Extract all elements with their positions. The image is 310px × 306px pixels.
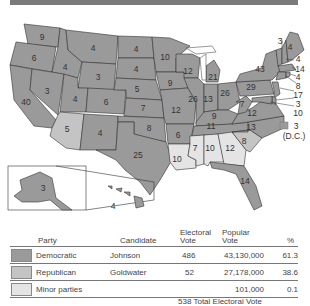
ev-label-vt: 3 [278,36,283,46]
ev-label-ar: 6 [176,130,181,140]
ev-label-va: 12 [247,108,257,118]
ev-label-id: 4 [63,62,68,72]
ev-label-in: 13 [203,94,213,104]
header-party: Party [38,237,57,245]
legend-swatch-minor [11,283,32,296]
total-electoral-vote: 538 Total Electoral Vote [178,297,262,306]
pct-cell: 0.1 [287,285,298,294]
ev-label-ne: 5 [135,84,140,94]
us-electoral-map: 9 6 40 4 3 4 3 4 5 6 4 4 4 5 7 8 25 10 9… [0,10,310,230]
ev-label-nh: 4 [296,54,301,64]
ev-label-nc: 13 [246,122,256,132]
header-electoral-2: Vote [180,237,196,245]
header-bar [10,0,298,5]
ev-label-wy: 3 [96,72,101,82]
ev-label-mn: 10 [160,52,170,62]
ev-label-wi: 12 [183,66,193,76]
ev-label-wa: 9 [40,32,45,42]
electoral-cell: 52 [185,268,194,277]
ev-label-mt: 4 [91,43,96,53]
legend-swatch-democratic [11,249,32,262]
ev-label-fl: 14 [240,176,250,186]
ev-label-ga: 12 [225,143,235,153]
results-table: Party Candidate Electoral Vote Popular V… [10,228,298,298]
party-cell: Republican [36,268,76,277]
candidate-cell: Johnson [110,251,140,260]
table-row: Republican Goldwater 52 27,178,000 38.6 [10,264,298,281]
lake-michigan [200,54,206,80]
party-cell: Minor parties [36,285,82,294]
ev-label-ia: 9 [168,78,173,88]
party-cell: Democratic [36,251,76,260]
ev-label-nv: 3 [45,86,50,96]
state-nj [272,82,280,98]
ev-label-hi: 4 [111,201,116,211]
ev-label-ca: 40 [21,97,31,107]
popular-cell: 101,000 [235,285,264,294]
ev-label-mo: 12 [171,105,181,115]
ev-label-ms: 7 [193,143,198,153]
state-ct [276,72,286,80]
table-row: Democratic Johnson 486 43,130,000 61.3 [10,247,298,264]
state-fl [210,162,262,210]
ev-label-sd: 4 [134,64,139,74]
ev-label-nd: 4 [134,44,139,54]
dc-label: (D.C.) [283,131,306,141]
pct-cell: 38.6 [282,268,298,277]
ev-label-sc: 8 [242,136,247,146]
header-popular-2: Vote [222,237,238,245]
ev-label-az: 5 [65,124,70,134]
ev-label-ks: 7 [141,103,146,113]
candidate-cell: Goldwater [110,268,146,277]
ev-label-ok: 8 [147,123,152,133]
header-pct: % [287,237,294,245]
ev-label-wv: 7 [240,99,245,109]
popular-cell: 43,130,000 [224,251,264,260]
ev-label-md: 10 [293,108,303,118]
popular-cell: 27,178,000 [224,268,264,277]
table-row: Minor parties 101,000 0.1 [10,281,298,298]
ev-label-nm: 4 [98,128,103,138]
ev-label-me: 4 [288,42,293,52]
ev-label-la: 10 [172,154,182,164]
ev-label-tx: 25 [133,150,143,160]
ev-label-mi: 21 [208,72,218,82]
electoral-cell: 486 [182,251,195,260]
lake-superior [186,46,216,54]
pct-cell: 61.3 [282,251,298,260]
ev-label-al: 10 [205,143,215,153]
ev-label-ut: 4 [73,94,78,104]
dc-swatch [280,122,288,129]
ev-label-oh: 26 [220,88,230,98]
ev-label-ky: 9 [212,111,217,121]
ev-label-pa: 29 [246,82,256,92]
ev-label-ny: 43 [255,64,265,74]
table-header: Party Candidate Electoral Vote Popular V… [10,228,298,247]
ev-label-tn: 11 [207,121,216,131]
ev-label-co: 6 [104,97,109,107]
header-candidate: Candidate [120,237,156,245]
legend-swatch-republican [11,266,32,279]
ev-label-or: 6 [32,53,37,63]
ev-label-ak: 3 [41,183,46,193]
ev-label-dc: 3 [294,121,299,131]
ev-label-il: 26 [188,94,198,104]
